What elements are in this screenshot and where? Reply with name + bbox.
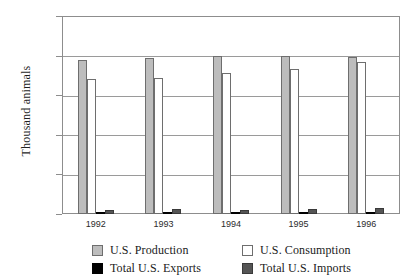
bar-production-1993 — [145, 58, 154, 214]
x-axis-tick-label-1992: 1992 — [66, 219, 126, 229]
chart-legend: U.S. ProductionU.S. ConsumptionTotal U.S… — [92, 241, 392, 277]
consumption-swatch-icon — [242, 245, 253, 256]
bar-exports-1996 — [366, 212, 375, 214]
bar-consumption-1996 — [357, 62, 366, 214]
x-axis-tick-label-1996: 1996 — [336, 219, 396, 229]
bar-consumption-1993 — [154, 78, 163, 214]
bar-consumption-1994 — [222, 73, 231, 214]
imports-swatch-icon — [242, 263, 253, 274]
bar-imports-1995 — [308, 209, 317, 214]
production-swatch-icon — [92, 245, 103, 256]
bar-chart-figure: Thousand animals 010,00020,00030,00040,0… — [0, 0, 418, 280]
bar-imports-1992 — [105, 210, 114, 214]
bar-consumption-1995 — [290, 69, 299, 214]
bar-group-1992 — [62, 16, 130, 214]
x-axis-tick-label-1994: 1994 — [201, 219, 261, 229]
exports-swatch-icon — [92, 263, 103, 274]
bar-consumption-1992 — [87, 79, 96, 214]
bar-imports-1993 — [172, 209, 181, 214]
x-axis-tick-label-1995: 1995 — [269, 219, 329, 229]
legend-label: Total U.S. Exports — [110, 261, 201, 276]
bar-production-1992 — [78, 60, 87, 214]
bar-production-1994 — [213, 56, 222, 214]
legend-label: U.S. Consumption — [260, 243, 351, 258]
bar-groups — [62, 16, 400, 214]
legend-item-production: U.S. Production — [92, 243, 242, 258]
bar-exports-1992 — [96, 212, 105, 214]
bar-group-1996 — [332, 16, 400, 214]
bar-group-1994 — [197, 16, 265, 214]
bar-imports-1994 — [240, 210, 249, 214]
y-axis-tick-mark — [56, 214, 62, 215]
legend-label: U.S. Production — [110, 243, 189, 258]
legend-item-imports: Total U.S. Imports — [242, 261, 392, 276]
bar-exports-1995 — [299, 212, 308, 214]
bar-imports-1996 — [375, 208, 384, 214]
x-axis-tick-label-1993: 1993 — [133, 219, 193, 229]
y-axis-title: Thousand animals — [19, 26, 35, 196]
bar-production-1996 — [348, 57, 357, 214]
legend-label: Total U.S. Imports — [260, 261, 351, 276]
bar-exports-1993 — [163, 212, 172, 214]
bar-group-1993 — [130, 16, 198, 214]
bar-exports-1994 — [231, 212, 240, 214]
legend-item-exports: Total U.S. Exports — [92, 261, 242, 276]
legend-item-consumption: U.S. Consumption — [242, 243, 392, 258]
bar-group-1995 — [265, 16, 333, 214]
bar-production-1995 — [281, 56, 290, 214]
